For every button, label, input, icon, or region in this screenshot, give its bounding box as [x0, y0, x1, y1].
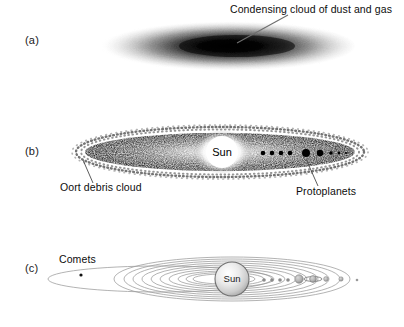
panel-b-graphics: Sun [72, 125, 368, 186]
panel-label-a: (a) [25, 34, 39, 46]
outer-planet-c-2 [324, 277, 329, 282]
comet-dot [79, 273, 82, 276]
panel-label-c: (c) [25, 262, 38, 274]
condensing-cloud-core [179, 35, 295, 57]
solar-system-formation-figure: Sun [0, 0, 404, 327]
sun-label-b: Sun [212, 146, 232, 158]
outer-planet-c [295, 275, 303, 283]
condensing-cloud-label: Condensing cloud of dust and gas [230, 3, 392, 15]
figure-canvas: Sun [0, 0, 404, 327]
inner-planets-c [262, 278, 290, 282]
panel-label-b: (b) [25, 145, 39, 157]
outer-planet-c-3 [339, 277, 343, 281]
panel-a-graphics [95, 15, 355, 71]
oort-debris-cloud-label: Oort debris cloud [60, 181, 142, 193]
comets-label: Comets [59, 253, 96, 265]
outer-planet-c-4 [356, 279, 359, 282]
sun-label-c: Sun [224, 273, 241, 284]
protoplanets-label: Protoplanets [296, 185, 356, 197]
